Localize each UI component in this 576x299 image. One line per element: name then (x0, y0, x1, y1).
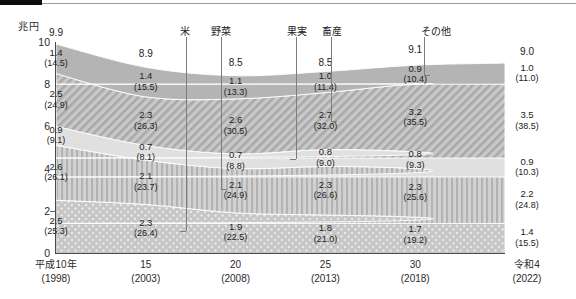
callout-foot-fruit (290, 159, 296, 160)
callout-line-other (424, 37, 425, 75)
value-label-米-5: 1.4(15.5) (505, 226, 549, 249)
value-number: 0.8 (319, 146, 332, 157)
x-label-4: 30(2018) (380, 258, 450, 286)
callout-foot-livestock (331, 121, 337, 122)
value-label-米-1: 2.3(26.4) (124, 217, 168, 240)
value-number: 1.8 (319, 222, 332, 233)
x-label-year: (2003) (111, 272, 181, 286)
value-number: 3.2 (409, 106, 422, 117)
callout-line-fruit (296, 37, 297, 159)
value-number: 0.7 (229, 149, 242, 160)
x-label-era: 20 (230, 259, 241, 270)
total-label-4: 9.1 (395, 44, 435, 55)
value-percent: (24.9) (34, 100, 78, 112)
value-percent: (22.5) (214, 232, 258, 244)
value-percent: (11.4) (303, 82, 347, 94)
value-number: 1.9 (229, 221, 242, 232)
total-label-0: 9.9 (36, 27, 76, 38)
value-label-畜産-3: 2.7(32.0) (303, 109, 347, 132)
callout-line-livestock (331, 37, 332, 121)
value-label-野菜-0: 2.6(26.1) (34, 161, 78, 184)
value-percent: (10.3) (505, 167, 549, 179)
x-label-year: (2022) (492, 272, 562, 286)
value-label-果実-1: 0.7(8.1) (124, 141, 168, 164)
value-percent: (26.6) (303, 190, 347, 202)
x-label-1: 15(2003) (111, 258, 181, 286)
value-number: 2.6 (49, 161, 62, 172)
value-label-米-0: 2.5(25.3) (34, 215, 78, 238)
value-percent: (10.4) (393, 74, 437, 86)
value-number: 1.4 (520, 226, 533, 237)
value-label-その他-5: 1.0(11.0) (505, 62, 549, 85)
value-label-果実-0: 0.9(9.1) (34, 124, 78, 147)
value-label-野菜-1: 2.1(23.7) (124, 170, 168, 193)
callout-foot-vegetables (221, 189, 227, 190)
x-label-era: 15 (140, 259, 151, 270)
x-label-year: (2018) (380, 272, 450, 286)
value-label-米-4: 1.7(19.2) (393, 223, 437, 246)
value-percent: (35.5) (393, 117, 437, 129)
x-label-year: (2008) (201, 272, 271, 286)
value-label-野菜-3: 2.3(26.6) (303, 179, 347, 202)
value-label-果実-4: 0.8(9.3) (393, 148, 437, 171)
callout-line-rice (186, 37, 187, 231)
value-percent: (8.1) (124, 152, 168, 164)
callout-label-vegetables: 野菜 (211, 23, 231, 38)
value-percent: (21.0) (303, 234, 347, 246)
value-percent: (19.2) (393, 235, 437, 247)
x-label-2: 20(2008) (201, 258, 271, 286)
callout-label-other: その他 (421, 23, 451, 38)
value-number: 2.3 (139, 109, 152, 120)
value-label-野菜-5: 2.2(24.8) (505, 188, 549, 211)
value-label-畜産-0: 2.5(24.9) (34, 88, 78, 111)
value-number: 2.6 (229, 114, 242, 125)
x-label-0: 平成10年(1998) (21, 258, 91, 286)
value-percent: (15.5) (505, 238, 549, 250)
value-percent: (9.3) (393, 160, 437, 172)
value-number: 0.9 (520, 156, 533, 167)
x-label-era: 25 (320, 259, 331, 270)
value-number: 1.4 (49, 47, 62, 58)
value-percent: (26.3) (124, 121, 168, 133)
value-percent: (25.3) (34, 226, 78, 238)
value-percent: (25.6) (393, 192, 437, 204)
x-label-era: 令和4 (514, 259, 540, 270)
value-number: 0.8 (409, 148, 422, 159)
callout-foot-rice (180, 231, 186, 232)
value-number: 3.5 (520, 109, 533, 120)
callout-foot-other (424, 75, 430, 76)
value-label-その他-0: 1.4(14.5) (34, 47, 78, 70)
value-label-その他-4: 0.9(10.4) (393, 63, 437, 86)
value-number: 2.1 (229, 179, 242, 190)
callout-label-fruit: 果実 (287, 23, 307, 38)
y-axis-ticks: 0246810 (0, 0, 50, 299)
value-label-果実-3: 0.8(9.0) (303, 146, 347, 169)
value-percent: (24.8) (505, 200, 549, 212)
value-number: 2.2 (520, 188, 533, 199)
value-number: 1.4 (139, 70, 152, 81)
value-label-その他-3: 1.0(11.4) (303, 70, 347, 93)
value-number: 1.1 (229, 75, 242, 86)
x-label-era: 30 (410, 259, 421, 270)
value-number: 1.0 (520, 62, 533, 73)
y-tickmark-4 (50, 169, 55, 170)
x-label-era: 平成10年 (35, 259, 76, 270)
x-label-5: 令和4(2022) (492, 258, 562, 286)
callout-label-livestock: 畜産 (322, 23, 342, 38)
value-percent: (24.9) (214, 190, 258, 202)
value-percent: (26.1) (34, 172, 78, 184)
value-label-米-3: 1.8(21.0) (303, 222, 347, 245)
value-label-畜産-4: 3.2(35.5) (393, 106, 437, 129)
callout-line-vegetables (221, 37, 222, 189)
value-percent: (23.7) (124, 182, 168, 194)
value-percent: (15.5) (124, 82, 168, 94)
value-percent: (32.0) (303, 121, 347, 133)
value-number: 2.3 (319, 179, 332, 190)
value-percent: (26.4) (124, 228, 168, 240)
value-number: 0.9 (49, 124, 62, 135)
value-percent: (14.5) (34, 58, 78, 70)
value-label-野菜-4: 2.3(25.6) (393, 181, 437, 204)
total-label-3: 8.5 (305, 57, 345, 68)
value-label-米-2: 1.9(22.5) (214, 221, 258, 244)
value-number: 0.9 (409, 63, 422, 74)
